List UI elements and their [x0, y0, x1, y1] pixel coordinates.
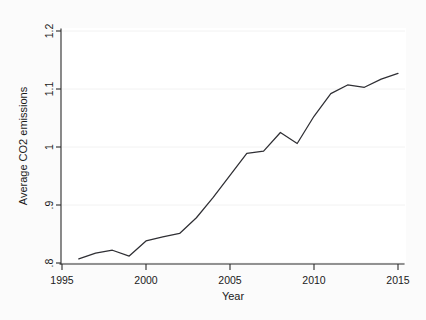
x-tick-label: 2005: [218, 274, 242, 286]
y-tick-label: 1: [43, 144, 55, 150]
y-tick-label: 1.1: [43, 82, 55, 97]
y-tick-label: .9: [43, 200, 55, 209]
chart-figure: .8.911.11.2 19952000200520102015 Year Av…: [0, 0, 426, 320]
line-chart: .8.911.11.2 19952000200520102015 Year Av…: [0, 0, 426, 320]
y-tick-label: .8: [43, 258, 55, 267]
x-tick-label: 1995: [50, 274, 74, 286]
plot-area-background: [61, 28, 406, 264]
y-axis-title: Average CO2 emissions: [17, 86, 29, 205]
x-tick-label: 2015: [386, 274, 410, 286]
x-axis-title: Year: [222, 290, 245, 302]
x-tick-label: 2010: [302, 274, 326, 286]
y-tick-label: 1.2: [43, 24, 55, 39]
x-tick-label: 2000: [134, 274, 158, 286]
